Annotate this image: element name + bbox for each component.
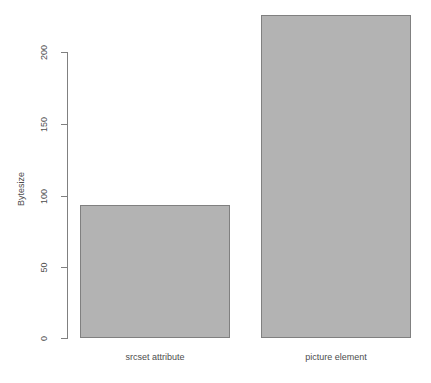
bar-chart-plot: 200 150 100 50 0 Bytesize srcset attribu…	[0, 0, 431, 383]
y-tick-100	[61, 196, 67, 197]
y-tick-label-150: 150	[39, 112, 50, 138]
y-tick-50	[61, 267, 67, 268]
y-axis-line	[67, 52, 68, 339]
bar-srcset-attribute	[80, 205, 230, 338]
y-axis-title: Bytesize	[16, 153, 26, 225]
bar-picture-element	[261, 15, 411, 338]
x-axis-label-picture-element: picture element	[261, 352, 411, 362]
y-tick-0	[61, 338, 67, 339]
x-axis-label-srcset-attribute: srcset attribute	[80, 352, 230, 362]
y-tick-label-50: 50	[39, 255, 50, 281]
y-tick-150	[61, 124, 67, 125]
y-tick-label-200: 200	[39, 40, 50, 66]
y-tick-label-100: 100	[39, 184, 50, 210]
y-tick-200	[61, 52, 67, 53]
y-tick-label-0: 0	[39, 326, 50, 352]
